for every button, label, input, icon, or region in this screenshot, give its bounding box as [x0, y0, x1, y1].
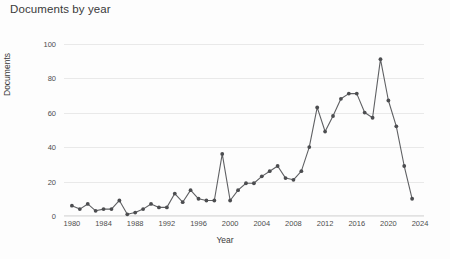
data-point-1996	[197, 197, 201, 201]
data-point-1998	[212, 199, 216, 203]
gridline-0	[64, 216, 424, 217]
x-tick-2024: 2024	[412, 219, 429, 228]
data-point-1992	[165, 205, 169, 209]
data-point-2001	[236, 188, 240, 192]
y-tick-20: 20	[48, 177, 56, 186]
x-tick-2012: 2012	[317, 219, 334, 228]
data-point-2003	[252, 181, 256, 185]
data-point-1980	[70, 204, 74, 208]
data-point-2009	[299, 169, 303, 173]
y-tick-0: 0	[52, 212, 56, 221]
data-point-1984	[102, 207, 106, 211]
y-tick-100: 100	[43, 39, 56, 48]
data-point-2021	[394, 124, 398, 128]
data-point-1982	[86, 202, 90, 206]
x-tick-2000: 2000	[222, 219, 239, 228]
data-point-2019	[379, 57, 383, 61]
data-point-2004	[260, 174, 264, 178]
data-point-1986	[117, 199, 121, 203]
x-tick-1984: 1984	[95, 219, 112, 228]
data-point-1994	[181, 200, 185, 204]
data-point-1981	[78, 207, 82, 211]
data-point-1990	[149, 202, 153, 206]
data-point-2007	[284, 176, 288, 180]
data-point-2000	[228, 199, 232, 203]
data-point-2017	[363, 111, 367, 115]
data-point-1989	[141, 207, 145, 211]
chart-title: Documents by year	[10, 3, 111, 15]
x-tick-2020: 2020	[380, 219, 397, 228]
data-point-2006	[276, 164, 280, 168]
y-tick-40: 40	[48, 143, 56, 152]
data-point-1987	[125, 212, 129, 216]
data-point-1983	[94, 209, 98, 213]
data-point-2011	[315, 106, 319, 110]
data-point-2013	[331, 114, 335, 118]
data-point-1993	[173, 192, 177, 196]
data-point-2022	[402, 164, 406, 168]
plot-area	[64, 35, 424, 216]
data-point-2014	[339, 97, 343, 101]
x-tick-1988: 1988	[127, 219, 144, 228]
series-line	[72, 59, 412, 214]
x-tick-1996: 1996	[190, 219, 207, 228]
data-point-1991	[157, 205, 161, 209]
data-point-1999	[220, 152, 224, 156]
y-tick-60: 60	[48, 108, 56, 117]
x-axis-tick-labels: 1980198419881992199620002004200820122016…	[64, 219, 424, 233]
data-point-2008	[292, 178, 296, 182]
data-point-2010	[307, 145, 311, 149]
x-tick-1980: 1980	[64, 219, 81, 228]
data-point-2015	[347, 92, 351, 96]
x-axis-title: Year	[0, 235, 450, 245]
series-documents	[64, 35, 424, 216]
data-point-1985	[110, 207, 114, 211]
data-point-1988	[133, 211, 137, 215]
data-point-2016	[355, 92, 359, 96]
data-point-2012	[323, 130, 327, 134]
x-tick-1992: 1992	[159, 219, 176, 228]
data-point-2002	[244, 181, 248, 185]
data-point-2020	[387, 99, 391, 103]
chart-container: Documents by year Documents 020406080100…	[0, 0, 450, 259]
x-tick-2008: 2008	[285, 219, 302, 228]
data-point-2023	[410, 197, 414, 201]
y-axis-tick-labels: 020406080100	[0, 35, 58, 216]
x-tick-2004: 2004	[253, 219, 270, 228]
data-point-2005	[268, 169, 272, 173]
x-tick-2016: 2016	[348, 219, 365, 228]
data-point-2018	[371, 116, 375, 120]
data-point-1997	[205, 199, 209, 203]
data-point-1995	[189, 188, 193, 192]
y-tick-80: 80	[48, 74, 56, 83]
